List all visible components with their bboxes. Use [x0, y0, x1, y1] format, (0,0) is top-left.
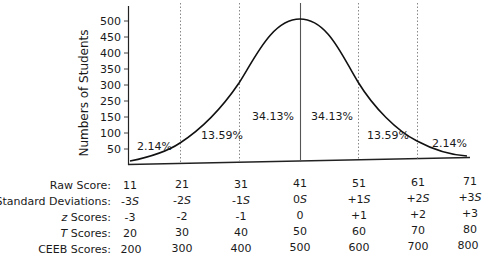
t-label-rest: Scores: — [67, 227, 111, 240]
score-row-labels: Raw Score: Standard Deviations: z Scores… — [0, 179, 111, 256]
y-axis-title: Numbers of Students — [77, 29, 91, 156]
pct-label-right-2sd: 13.59% — [367, 129, 409, 142]
t-score-cell: 50 — [293, 225, 307, 238]
z-score-cell: +3 — [462, 207, 478, 220]
t-score-cell: 70 — [411, 224, 425, 237]
y-tick-50: 50 — [107, 143, 121, 156]
ceeb-score-cell: 600 — [349, 241, 370, 254]
y-tick-350: 350 — [100, 63, 121, 76]
t-score-cell: 40 — [234, 226, 248, 239]
pct-label-left-1sd: 34.13% — [252, 110, 294, 123]
sd-cell: -3S — [121, 195, 139, 208]
pct-label-left-tail: 2.14% — [137, 140, 172, 153]
z-score-row: -3 -2 -1 0 +1 +2 +3 — [125, 207, 479, 224]
y-tick-150: 150 — [100, 111, 121, 124]
raw-score-cell: 31 — [234, 178, 248, 191]
pct-label-right-1sd: 34.13% — [311, 110, 353, 123]
row-label-raw-score: Raw Score: — [50, 179, 111, 192]
ceeb-score-cell: 500 — [290, 241, 311, 254]
z-score-cell: -3 — [125, 211, 136, 224]
sd-cell: +1S — [347, 193, 370, 206]
t-score-cell: 80 — [463, 223, 477, 236]
t-score-cell: 30 — [175, 226, 189, 239]
raw-score-cell: 51 — [352, 177, 366, 190]
raw-score-cell: 61 — [411, 176, 425, 189]
z-score-cell: -1 — [236, 210, 247, 223]
row-label-z-scores: z Scores: — [60, 211, 111, 224]
z-score-cell: 0 — [297, 209, 304, 222]
sd-cell: -2S — [173, 194, 191, 207]
z-score-cell: +2 — [410, 208, 426, 221]
row-label-t-scores: T Scores: — [61, 227, 111, 240]
normal-distribution-chart: Numbers of Students 500 450 400 350 300 … — [0, 0, 482, 275]
y-tick-500: 500 — [100, 15, 121, 28]
t-score-row: 20 30 40 50 60 70 80 — [123, 223, 477, 240]
ceeb-score-cell: 400 — [231, 242, 252, 255]
ceeb-score-cell: 700 — [408, 240, 429, 253]
y-tick-100: 100 — [100, 127, 121, 140]
raw-score-cell: 71 — [463, 175, 477, 188]
row-label-ceeb-scores: CEEB Scores: — [38, 243, 111, 256]
y-tick-300: 300 — [100, 79, 121, 92]
z-label-rest: Scores: — [67, 211, 111, 224]
y-ticks — [124, 21, 128, 149]
ceeb-score-row: 200 300 400 500 600 700 800 — [121, 239, 479, 256]
pct-label-right-tail: 2.14% — [432, 137, 467, 150]
sd-cell: 0S — [293, 193, 307, 206]
ceeb-score-cell: 300 — [172, 242, 193, 255]
x-axis — [128, 158, 470, 165]
z-score-cell: +1 — [351, 209, 367, 222]
y-tick-labels: 500 450 400 350 300 250 150 100 50 — [100, 15, 121, 156]
pct-label-left-2sd: 13.59% — [201, 129, 243, 142]
sd-cell: -1S — [232, 194, 250, 207]
t-score-cell: 60 — [352, 225, 366, 238]
y-tick-400: 400 — [100, 47, 121, 60]
ceeb-score-cell: 200 — [121, 243, 142, 256]
sd-cell: +2S — [406, 192, 429, 205]
y-tick-250: 250 — [100, 95, 121, 108]
raw-score-cell: 41 — [293, 177, 307, 190]
raw-score-cell: 21 — [175, 178, 189, 191]
z-score-cell: -2 — [177, 210, 188, 223]
sd-cell: +3S — [458, 191, 481, 204]
ceeb-score-cell: 800 — [458, 239, 479, 252]
row-label-standard-deviations: Standard Deviations: — [0, 195, 111, 208]
t-score-cell: 20 — [123, 227, 137, 240]
standard-deviation-row: -3S -2S -1S 0S +1S +2S +3S — [121, 191, 482, 208]
y-tick-450: 450 — [100, 31, 121, 44]
raw-score-row: 11 21 31 41 51 61 71 — [123, 175, 477, 192]
raw-score-cell: 11 — [123, 179, 137, 192]
